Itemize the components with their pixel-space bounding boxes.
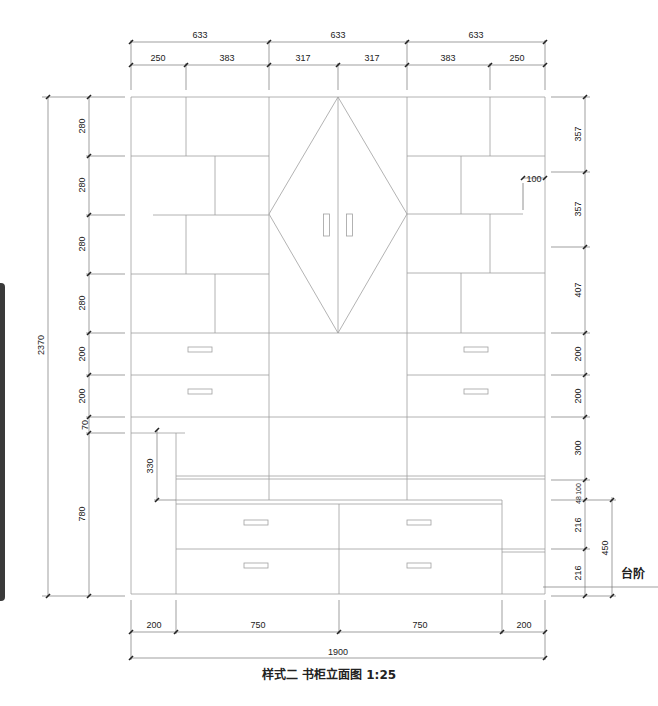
dim-right-6: 300 <box>573 440 583 455</box>
dim-top-detail-2: 383 <box>219 53 234 63</box>
dim-top-detail-6: 250 <box>509 53 524 63</box>
dim-top-detail-1: 250 <box>150 53 165 63</box>
dim-left-7: 70 <box>80 420 90 430</box>
dim-right-5: 200 <box>573 388 583 403</box>
dim-top-detail-5: 383 <box>440 53 455 63</box>
dim-right-note: 100 <box>526 174 541 184</box>
dim-left-inner: 330 <box>145 458 155 473</box>
dim-left-overall: 2370 <box>36 335 46 355</box>
dim-left-8: 780 <box>77 506 87 521</box>
dim-bottom-4: 200 <box>516 620 531 630</box>
dim-left-6: 200 <box>77 388 87 403</box>
drawing-caption: 样式二 书柜立面图 1:25 <box>0 665 658 682</box>
dim-top-overall-1: 633 <box>192 30 207 40</box>
dim-right-2: 357 <box>573 201 583 216</box>
dim-right-4: 200 <box>573 346 583 361</box>
dim-bottom-2: 750 <box>250 620 265 630</box>
dim-bottom-3: 750 <box>412 620 427 630</box>
dim-right-9: 216 <box>573 517 583 532</box>
dimension-lines <box>42 40 658 660</box>
step-label: 台阶 <box>621 564 645 581</box>
dim-left-4: 280 <box>77 295 87 310</box>
dim-left-5: 200 <box>77 346 87 361</box>
dim-right-1: 357 <box>573 126 583 141</box>
bookcase-elevation-drawing: 633 633 633 250 383 317 317 383 250 2370… <box>0 0 658 706</box>
dim-right-10: 216 <box>573 565 583 580</box>
dim-left-1: 280 <box>77 118 87 133</box>
dim-right-outer: 450 <box>600 540 610 555</box>
dim-right-3: 407 <box>573 282 583 297</box>
dimension-labels: 633 633 633 250 383 317 317 383 250 2370… <box>36 30 610 657</box>
dim-left-2: 280 <box>77 177 87 192</box>
dim-top-overall-2: 633 <box>330 30 345 40</box>
dim-top-detail-3: 317 <box>295 53 310 63</box>
dim-bottom-1: 200 <box>146 620 161 630</box>
dim-left-3: 280 <box>77 236 87 251</box>
dim-right-8: 100 <box>575 483 582 495</box>
dim-right-7: 48 <box>575 496 582 504</box>
dim-top-detail-4: 317 <box>364 53 379 63</box>
dim-bottom-overall: 1900 <box>328 647 348 657</box>
cabinet-outline <box>131 97 545 594</box>
dim-top-overall-3: 633 <box>468 30 483 40</box>
